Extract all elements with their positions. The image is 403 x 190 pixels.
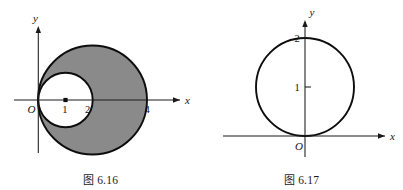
x-tick-label-4: 4 [145, 104, 151, 115]
y-tick-label-1: 1 [295, 82, 300, 93]
x-axis-label: x [389, 130, 395, 142]
figure-6-17-canvas: x y O 1 2 [201, 0, 402, 165]
origin-label: O [28, 103, 36, 115]
caption-number-6-17: 6.17 [298, 174, 319, 186]
figure-6-16-caption: 图 6.16 [0, 171, 201, 187]
x-axis-label: x [184, 94, 190, 106]
y-axis-label: y [32, 12, 38, 24]
caption-number-6-16: 6.16 [97, 174, 118, 186]
figure-6-17-caption: 图 6.17 [201, 171, 402, 187]
caption-prefix-6-16: 图 [83, 174, 94, 187]
figures-sheet: x y O 1 2 4 图 6.16 x y [0, 0, 403, 190]
y-axis-label: y [309, 6, 315, 18]
figure-6-17-panel: x y O 1 2 图 6.17 [201, 0, 402, 190]
caption-prefix-6-17: 图 [284, 174, 295, 187]
x-axis-arrow [378, 133, 385, 138]
y-axis-arrow [302, 20, 307, 27]
figure-6-16-canvas: x y O 1 2 4 [0, 0, 201, 165]
figure-6-16-panel: x y O 1 2 4 图 6.16 [0, 0, 201, 190]
y-tick-label-2: 2 [295, 33, 300, 44]
x-tick-label-1: 1 [62, 104, 67, 115]
center-point-marker [63, 98, 67, 102]
x-tick-label-2: 2 [85, 104, 90, 115]
origin-label: O [295, 140, 303, 152]
shaded-region [0, 0, 201, 165]
